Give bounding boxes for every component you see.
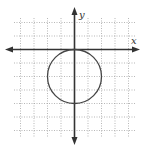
y-axis-label: y (78, 9, 85, 20)
y-axis-up-arrow-icon (72, 7, 78, 15)
y-axis-down-arrow-icon (72, 137, 78, 145)
x-axis-left-arrow-icon (5, 47, 13, 53)
x-axis-right-arrow-icon (132, 47, 140, 53)
y-axis (72, 7, 78, 145)
x-axis-label: x (131, 35, 137, 46)
coordinate-plane: x y (0, 0, 144, 149)
